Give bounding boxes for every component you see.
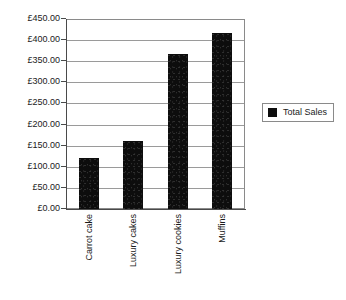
legend-swatch-total-sales [268,108,277,117]
y-axis-tick-label: £50.00 [4,183,60,192]
x-axis-label-slot: Luxury cookies [168,212,188,300]
bar [79,158,99,210]
legend-label-total-sales: Total Sales [283,108,327,117]
y-axis-tick [61,187,66,188]
y-axis-tick-label: £150.00 [4,141,60,150]
x-axis-category-label: Carrot cake [85,214,94,261]
bar [212,33,232,209]
y-axis-tick [61,166,66,167]
y-axis-tick-label: £300.00 [4,77,60,86]
x-axis-label-slot: Carrot cake [79,212,99,300]
x-axis-line [66,209,246,210]
y-axis-tick-label: £450.00 [4,14,60,23]
y-axis-tick [61,39,66,40]
y-axis-tick-label: £250.00 [4,98,60,107]
y-axis-tick-label: £0.00 [4,204,60,213]
bar [168,54,188,209]
y-axis-tick [61,124,66,125]
y-axis-tick [61,60,66,61]
x-axis-category-label: Muffins [217,214,226,243]
chart-legend: Total Sales [262,103,334,122]
y-axis-tick [61,208,66,209]
x-axis-category-label: Luxury cookies [173,214,182,274]
x-axis-label-slot: Luxury cakes [123,212,143,300]
y-axis-tick-label: £200.00 [4,120,60,129]
bar-series-total-sales [67,20,244,209]
chart-screenshot: £0.00£50.00£100.00£150.00£200.00£250.00£… [0,0,346,300]
x-axis-category-labels: Carrot cakeLuxury cakesLuxury cookiesMuf… [67,212,244,300]
x-axis-label-slot: Muffins [212,212,232,300]
y-axis-tick [61,102,66,103]
y-axis-labels: £0.00£50.00£100.00£150.00£200.00£250.00£… [0,0,60,300]
y-axis-tick-label: £100.00 [4,162,60,171]
y-axis-tick-label: £400.00 [4,35,60,44]
y-axis-tick [61,18,66,19]
bar [123,141,143,209]
y-axis-tick [61,81,66,82]
y-axis-tick [61,145,66,146]
y-axis-tick-label: £350.00 [4,56,60,65]
x-axis-category-label: Luxury cakes [129,214,138,267]
